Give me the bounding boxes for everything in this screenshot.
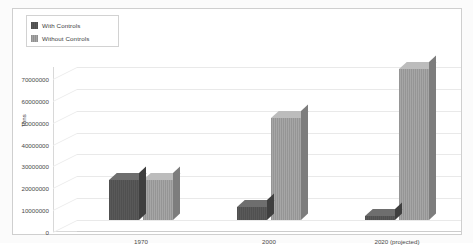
y-axis-tick-label: 70000000: [21, 76, 49, 83]
gridline-depth: [53, 133, 77, 158]
legend-item-without-controls: Without Controls: [31, 32, 114, 45]
bar-with-controls: [109, 180, 139, 220]
gridline-depth: [53, 111, 77, 136]
bar-side-face: [173, 166, 180, 220]
chart-frame: With Controls Without Controls Tons 7000…: [12, 8, 462, 235]
y-axis-tick-label: 0: [46, 229, 49, 236]
plot-area: 7000000060000000500000004000000030000000…: [53, 67, 461, 232]
chart-legend: With Controls Without Controls: [26, 15, 119, 47]
bar-side-face: [429, 56, 436, 220]
y-axis-tick-label: 20000000: [21, 185, 49, 192]
y-axis-tick-label: 30000000: [21, 163, 49, 170]
light-swatch-icon: [31, 35, 38, 42]
bar-with-controls: [237, 207, 267, 220]
bar-side-face: [139, 166, 146, 220]
y-axis-tick-label: 10000000: [21, 207, 49, 214]
x-axis-tick-label: 2020 (projected): [333, 238, 461, 245]
dark-swatch-icon: [31, 22, 38, 29]
gridline-depth: [53, 176, 77, 201]
x-axis-line: [77, 231, 461, 232]
bar-with-controls: [365, 216, 395, 220]
x-axis-tick-label: 1970: [77, 238, 205, 245]
y-axis-tick-label: 50000000: [21, 119, 49, 126]
gridline-depth: [53, 154, 77, 179]
y-axis-tick-label: 60000000: [21, 97, 49, 104]
bar-without-controls: [399, 69, 429, 220]
y-axis-tick-label: 40000000: [21, 141, 49, 148]
x-axis-tick-label: 2000: [205, 238, 333, 245]
legend-label: With Controls: [42, 22, 80, 29]
gridline-depth: [53, 67, 77, 92]
bar-without-controls: [143, 180, 173, 220]
legend-label: Without Controls: [42, 35, 89, 42]
bar-without-controls: [271, 118, 301, 220]
gridline-depth: [53, 89, 77, 114]
legend-item-with-controls: With Controls: [31, 19, 114, 32]
gridline: [77, 220, 461, 221]
bar-side-face: [301, 105, 308, 220]
